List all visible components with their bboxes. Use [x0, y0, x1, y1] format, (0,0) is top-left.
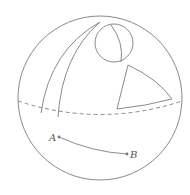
label-b: B [129, 149, 137, 160]
lune-left-arc [41, 22, 100, 113]
sphere-diagram: A B [0, 0, 190, 195]
label-a: A [48, 132, 56, 143]
arc-a-b [59, 137, 127, 154]
point-b [126, 153, 129, 156]
spherical-triangle [117, 65, 172, 109]
point-a [58, 136, 61, 139]
small-circle-inner-arc [111, 25, 122, 62]
sphere-outline [18, 16, 182, 180]
